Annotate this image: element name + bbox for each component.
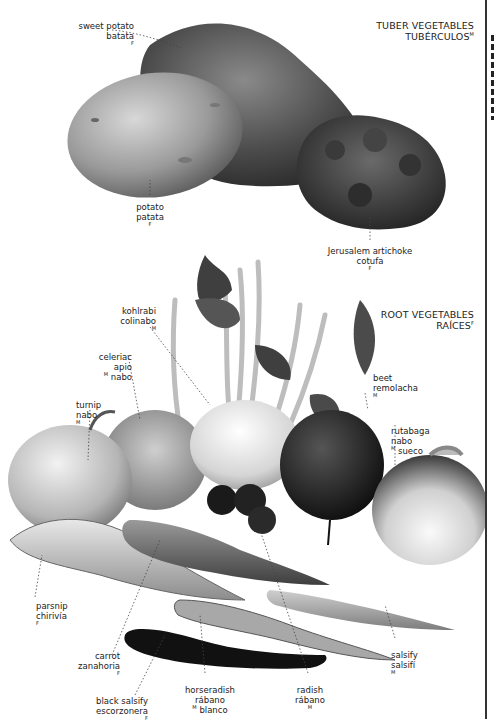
label-en: salsify <box>391 650 431 660</box>
gender-marker: F <box>369 265 372 271</box>
label-kohlrabi: kohlrabi colinaboM <box>110 306 156 336</box>
label-es: rábano <box>170 695 250 705</box>
label-es-suffix: blanco <box>197 705 228 715</box>
gender-marker: M <box>308 704 312 710</box>
page-margin-rule <box>485 0 487 719</box>
label-es: escorzonera <box>80 706 148 716</box>
label-es: remolacha <box>373 383 443 393</box>
gender-marker: M <box>373 392 377 398</box>
section-title-es: TUBÉRCULOS <box>405 31 469 42</box>
label-en: rutabaga <box>391 426 466 436</box>
label-es: colinabo <box>110 316 156 326</box>
label-potato: potato patataF <box>120 202 180 232</box>
label-en: parsnip <box>36 601 86 611</box>
label-en: black salsify <box>80 696 148 706</box>
section-title-en: ROOT VEGETABLES <box>370 309 474 320</box>
label-radish: radish rábanoM <box>290 685 330 715</box>
label-turnip: turnip naboM <box>76 400 116 430</box>
gender-marker: F <box>131 40 134 46</box>
section-heading-root: ROOT VEGETABLES RAÍCESF <box>370 309 474 331</box>
page-edge-tab <box>491 35 494 120</box>
gender-marker: F <box>149 221 152 227</box>
gender-marker: M <box>152 325 156 331</box>
label-beet: beet remolachaM <box>373 373 443 403</box>
section-title-es: RAÍCES <box>436 320 471 331</box>
label-sweet-potato: sweet potato batataF <box>70 21 134 51</box>
salsify-shape <box>267 590 455 630</box>
label-jerusalem-artichoke: Jerusalem artichoke cotufaF <box>320 246 420 276</box>
jerusalem-artichoke-shape <box>297 115 446 229</box>
label-es: batata <box>70 31 134 41</box>
label-en: beet <box>373 373 443 383</box>
gender-marker: M <box>470 31 474 37</box>
gender-marker: M <box>76 419 80 425</box>
gender-marker: F <box>117 670 120 676</box>
label-horseradish: horseradish rábanoM blanco <box>170 685 250 715</box>
label-rutabaga: rutabaga naboM sueco <box>391 426 466 456</box>
label-es: nabo <box>76 410 116 420</box>
gender-marker: F <box>36 620 39 626</box>
gender-marker: M <box>391 669 395 675</box>
section-heading-tuber: TUBER VEGETABLES TUBÉRCULOSM <box>370 20 474 42</box>
label-en: potato <box>120 202 180 212</box>
gender-marker: F <box>145 715 148 721</box>
section-title-en: TUBER VEGETABLES <box>370 20 474 31</box>
label-en: turnip <box>76 400 116 410</box>
label-en: celeriac <box>80 352 132 362</box>
label-en: radish <box>290 685 330 695</box>
label-parsnip: parsnip chirivíaF <box>36 601 86 631</box>
label-es-suffix: sueco <box>395 446 423 456</box>
label-en: sweet potato <box>70 21 134 31</box>
label-en: kohlrabi <box>110 306 156 316</box>
label-en: carrot <box>70 651 120 661</box>
radish-shape <box>207 484 276 534</box>
beet-shape <box>280 410 384 545</box>
label-es: nabo <box>391 436 466 446</box>
rutabaga-shape <box>372 448 486 566</box>
label-en: Jerusalem artichoke <box>320 246 420 256</box>
label-es-suffix: nabo <box>108 372 132 382</box>
leaves <box>195 255 375 425</box>
label-es: salsifí <box>391 660 431 670</box>
label-black-salsify: black salsify escorzoneraF <box>80 696 148 724</box>
label-es: chirivía <box>36 611 86 621</box>
label-salsify: salsify salsifíM <box>391 650 431 680</box>
label-celeriac: celeriac apioM nabo <box>80 352 132 382</box>
label-en: horseradish <box>170 685 250 695</box>
gender-marker: F <box>471 320 474 326</box>
label-es: zanahoria <box>70 661 120 671</box>
label-carrot: carrot zanahoriaF <box>70 651 120 681</box>
